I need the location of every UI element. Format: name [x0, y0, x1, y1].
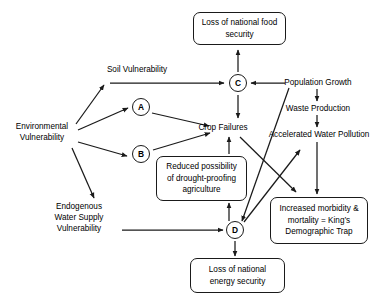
node-d-label: D — [232, 226, 238, 234]
edge-env-to-b — [78, 142, 127, 156]
node-accelerated-water-pollution: Accelerated Water Pollution — [262, 129, 376, 140]
endogenous-line1: Endogenous — [36, 201, 122, 212]
edge-env-to-endogenous — [72, 148, 94, 198]
endogenous-line3: Vulnerability — [36, 223, 122, 234]
node-d-circle: D — [226, 221, 244, 239]
env-vuln-line2: Vulnerability — [4, 132, 80, 143]
env-vuln-line1: Environmental — [4, 121, 80, 132]
food-security-line1: Loss of national food — [202, 17, 278, 29]
node-waste-production: Waste Production — [282, 103, 354, 114]
node-a-circle: A — [132, 98, 150, 116]
drought-line2: of drought-proofing — [166, 173, 237, 185]
node-environmental-vulnerability: Environmental Vulnerability — [4, 121, 80, 143]
node-c-circle: C — [229, 74, 247, 92]
morbidity-line2: mortality = King’s — [279, 215, 358, 227]
edge-b-to-crop — [153, 133, 210, 150]
node-soil-vulnerability: Soil Vulnerability — [94, 64, 180, 75]
box-increased-morbidity: Increased morbidity & mortality = King’s… — [270, 197, 368, 244]
node-a-label: A — [138, 103, 144, 111]
food-security-line2: security — [202, 29, 278, 41]
drought-line3: agriculture — [166, 184, 237, 196]
morbidity-line1: Increased morbidity & — [279, 203, 358, 215]
box-loss-national-food-security: Loss of national food security — [193, 12, 286, 45]
diagram-edges-layer — [0, 0, 392, 301]
node-population-growth: Population Growth — [279, 77, 357, 88]
box-reduced-drought-proofing: Reduced possibility of drought-proofing … — [156, 156, 247, 201]
edge-env-to-soil — [76, 85, 104, 124]
morbidity-line3: Demographic Trap — [279, 226, 358, 238]
box-loss-national-energy-security: Loss of national energy security — [190, 258, 285, 293]
energy-security-line2: energy security — [209, 276, 266, 288]
node-crop-failures: Crop Failures — [190, 122, 256, 133]
drought-line1: Reduced possibility — [166, 161, 237, 173]
endogenous-line2: Water Supply — [36, 212, 122, 223]
node-endogenous-water-supply: Endogenous Water Supply Vulnerability — [36, 201, 122, 234]
energy-security-line1: Loss of national — [209, 264, 266, 276]
node-b-label: B — [138, 150, 144, 158]
diagram-canvas: Environmental Vulnerability Soil Vulnera… — [0, 0, 392, 301]
node-b-circle: B — [132, 145, 150, 163]
edge-crop-to-morbidity — [240, 137, 296, 192]
node-c-label: C — [235, 79, 241, 87]
